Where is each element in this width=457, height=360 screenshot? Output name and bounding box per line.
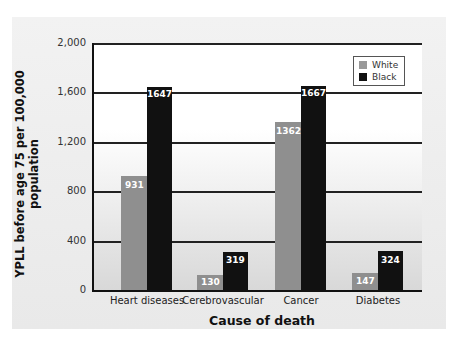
x-axis-line <box>92 290 422 292</box>
x-tick-diabetes: Diabetes <box>333 295 423 306</box>
value-label: 324 <box>378 255 403 265</box>
y-axis-line <box>92 43 94 292</box>
legend-item-black: Black <box>359 72 396 82</box>
y-tick-400: 400 <box>46 235 86 246</box>
bar-black-cancer <box>301 86 326 291</box>
bar-white-heart-diseases <box>121 176 147 291</box>
x-axis-title: Cause of death <box>172 313 352 328</box>
value-label: 1647 <box>147 89 172 99</box>
legend-label: Black <box>372 72 396 82</box>
value-label: 1362 <box>276 126 301 136</box>
y-tick-1200: 1,200 <box>46 136 86 147</box>
value-label: 147 <box>353 276 378 286</box>
value-label: 1667 <box>301 88 326 98</box>
value-label: 319 <box>223 255 248 265</box>
bar-white-cancer <box>275 122 301 291</box>
y-tick-2000: 2,000 <box>46 37 86 48</box>
value-label: 130 <box>198 277 223 287</box>
y-tick-800: 800 <box>46 185 86 196</box>
gridline-1600 <box>92 92 422 94</box>
bar-black-heart-diseases <box>147 87 172 291</box>
y-tick-1600: 1,600 <box>46 86 86 97</box>
legend: White Black <box>353 56 405 86</box>
y-axis-title: YPLL before age 75 per 100,000 populatio… <box>13 59 41 289</box>
legend-item-white: White <box>359 60 398 70</box>
value-label: 931 <box>122 180 147 190</box>
legend-swatch-white <box>359 61 367 69</box>
y-tick-0: 0 <box>46 284 86 295</box>
legend-swatch-black <box>359 73 367 81</box>
x-tick-cerebrovascular: Cerebrovascular <box>178 295 268 306</box>
gridline-1200 <box>92 142 422 144</box>
gridline-2000 <box>92 43 422 45</box>
legend-label: White <box>372 60 398 70</box>
